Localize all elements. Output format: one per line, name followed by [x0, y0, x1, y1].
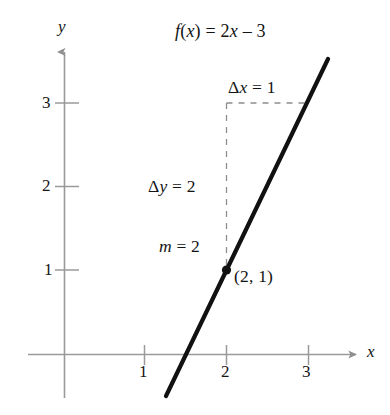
y-axis-label: y	[58, 18, 66, 35]
linear-function-figure: y x 3 2 1 1 2 3 f(x) = 2x – 3 Δx = 1 Δy …	[0, 0, 390, 415]
function-line	[166, 59, 328, 396]
x-tick-label-2: 2	[221, 363, 230, 380]
function-equation-label: f(x) = 2x – 3	[175, 22, 266, 40]
delta-x-label: Δx = 1	[228, 79, 276, 97]
point-coordinate-label: (2, 1)	[234, 268, 273, 286]
graph-canvas	[0, 0, 390, 415]
delta-y-label: Δy = 2	[148, 178, 196, 196]
y-tick-label-1: 1	[44, 261, 53, 278]
x-tick-label-1: 1	[139, 363, 148, 380]
x-tick-label-3: 3	[302, 363, 311, 380]
y-tick-label-2: 2	[42, 177, 51, 194]
y-tick-label-3: 3	[42, 94, 51, 111]
point-marker	[222, 265, 231, 274]
slope-label: m = 2	[159, 238, 200, 256]
x-axis-label: x	[367, 343, 375, 360]
